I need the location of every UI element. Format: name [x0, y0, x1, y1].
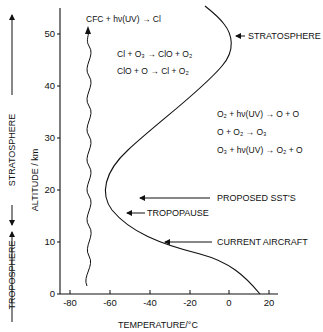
y-tick-20: 20 — [44, 184, 55, 195]
stratosphere-region-label: STRATOSPHERE — [7, 114, 17, 187]
annotation-tropopause: TROPOPAUSE — [127, 208, 209, 218]
y-tick-30: 30 — [44, 132, 55, 143]
reaction-cl-o3: Cl + O₃ → ClO + O₂ — [117, 49, 192, 59]
reaction-clo-o: ClO + O → Cl + O₂ — [117, 66, 189, 76]
x-tick-20: 20 — [264, 297, 275, 308]
x-tick-neg40: -40 — [143, 297, 157, 308]
x-tick-neg80: -80 — [63, 297, 77, 308]
y-tick-40: 40 — [44, 80, 55, 91]
y-tick-10: 10 — [44, 236, 55, 247]
y-tick-50: 50 — [44, 28, 55, 39]
annotation-current-aircraft: CURRENT AIRCRAFT — [165, 237, 308, 247]
reaction-o3-uv: O₃ + hν(UV) → O₂ + O — [217, 145, 303, 155]
stratosphere-annotation-label: STRATOSPHERE — [248, 31, 321, 41]
x-tick-neg60: -60 — [103, 297, 117, 308]
y-axis: 0 10 20 30 40 50 — [44, 8, 60, 299]
annotation-stratosphere: STRATOSPHERE — [236, 31, 321, 41]
reaction-o-o2: O + O₂ → O₃ — [217, 127, 267, 137]
reaction-o2-uv: O₂ + hν(UV) → O + O — [217, 109, 300, 119]
atmosphere-diagram: 0 10 20 30 40 50 -80 -60 -40 -20 0 20 TE… — [0, 0, 323, 332]
x-tick-0: 0 — [226, 297, 231, 308]
tropopause-label: TROPOPAUSE — [147, 208, 209, 218]
y-tick-0: 0 — [50, 288, 55, 299]
proposed-sst-label: PROPOSED SST'S — [217, 193, 296, 203]
region-indicator: STRATOSPHERE TROPOSPHERE — [7, 15, 17, 322]
x-axis-label: TEMPERATURE/°C — [118, 320, 198, 330]
annotation-proposed-sst: PROPOSED SST'S — [140, 193, 296, 203]
current-aircraft-label: CURRENT AIRCRAFT — [217, 237, 308, 247]
x-tick-neg20: -20 — [183, 297, 197, 308]
reaction-cfc: CFC + hν(UV) → Cl — [86, 14, 161, 24]
wavy-uv-path — [86, 30, 91, 286]
y-axis-label: ALTITUDE / km — [30, 149, 40, 211]
x-axis: -80 -60 -40 -20 0 20 TEMPERATURE/°C — [60, 290, 278, 330]
wavy-arrow-head-icon — [85, 26, 91, 34]
